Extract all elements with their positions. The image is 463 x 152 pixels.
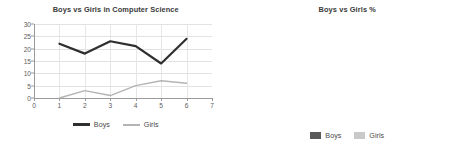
x-tick-label: 4 [134,102,138,109]
x-tick-mark [136,98,137,101]
x-tick-label: 7 [210,102,214,109]
y-tick-label: 30 [24,21,31,28]
line-chart-series-group [34,24,212,98]
bar-chart-panel: Boys vs Girls % 0.00%20.00%40.00%60.00%8… [232,0,463,152]
girls-line-swatch [123,124,140,126]
series-line-boys [59,39,186,64]
legend-item-girls: Girls [123,120,159,129]
y-tick-label: 15 [24,58,31,65]
x-tick-mark [161,98,162,101]
x-tick-mark [212,98,213,101]
x-tick-label: 5 [159,102,163,109]
girls-box-swatch [354,132,365,139]
boys-line-swatch [73,123,90,126]
x-tick-label: 0 [32,102,36,109]
legend-label-girls: Girls [369,131,384,140]
bar-chart-legend: Boys Girls [232,131,463,140]
y-tick-label: 10 [24,70,31,77]
x-tick-mark [110,98,111,101]
boys-box-swatch [310,132,321,139]
x-tick-mark [187,98,188,101]
legend-item-girls: Girls [354,131,384,140]
dual-chart-figure: Boys vs Girls in Computer Science 051015… [0,0,463,152]
line-chart-title: Boys vs Girls in Computer Science [0,5,232,14]
x-tick-mark [85,98,86,101]
legend-label-boys: Boys [94,120,110,129]
legend-item-boys: Boys [310,131,341,140]
legend-item-boys: Boys [73,120,110,129]
legend-label-girls: Girls [144,120,159,129]
y-tick-label: 20 [24,45,31,52]
line-chart-plot-area: 051015202530 01234567 [34,24,212,98]
bar-chart-title: Boys vs Girls % [232,5,463,14]
x-tick-label: 1 [58,102,62,109]
x-tick-mark [34,98,35,101]
legend-label-boys: Boys [325,131,341,140]
x-tick-label: 6 [185,102,189,109]
line-chart-panel: Boys vs Girls in Computer Science 051015… [0,0,232,152]
x-tick-label: 3 [108,102,112,109]
line-chart-legend: Boys Girls [0,120,232,129]
x-tick-label: 2 [83,102,87,109]
series-line-girls [59,81,186,98]
y-tick-label: 25 [24,33,31,40]
